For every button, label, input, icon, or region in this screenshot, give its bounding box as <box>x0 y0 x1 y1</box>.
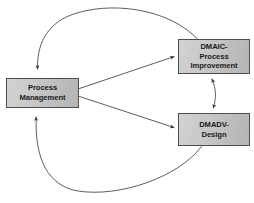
node-dmaic-process-improvement[interactable]: DMAIC- Process Improvement <box>178 39 250 74</box>
connector-pm-to-dmadv <box>80 97 175 128</box>
node-process-management-line-2: Management <box>8 93 77 103</box>
node-dmadv-line-1: DMADV- <box>180 120 248 130</box>
node-dmaic-line-3: Improvement <box>180 61 248 71</box>
connector-dmaic-dmadv <box>212 79 215 108</box>
process-management-diagram: Process Management DMAIC- Process Improv… <box>0 0 254 203</box>
connector-dmadv-to-pm-arc <box>36 117 201 192</box>
node-dmaic-line-2: Process <box>180 52 248 62</box>
node-dmadv-label: DMADV- Design <box>179 120 249 139</box>
node-dmaic-label: DMAIC- Process Improvement <box>179 42 249 71</box>
node-dmadv-design[interactable]: DMADV- Design <box>178 113 250 146</box>
node-process-management-label: Process Management <box>7 83 78 102</box>
connector-dmaic-to-pm-arc <box>38 8 199 69</box>
node-process-management[interactable]: Process Management <box>6 78 79 108</box>
node-process-management-line-1: Process <box>8 83 77 93</box>
node-dmaic-line-1: DMAIC- <box>180 42 248 52</box>
connector-pm-to-dmaic <box>80 57 175 89</box>
node-dmadv-line-2: Design <box>180 130 248 140</box>
